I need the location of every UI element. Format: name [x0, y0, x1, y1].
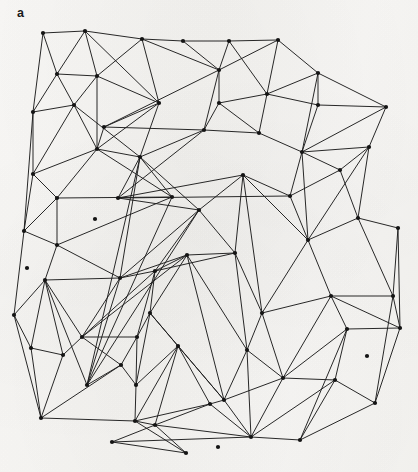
- mesh-edge: [87, 197, 172, 385]
- mesh-edge: [155, 425, 251, 437]
- mesh-edge: [308, 240, 331, 296]
- mesh-edge: [43, 33, 57, 74]
- mesh-vertex: [134, 383, 138, 387]
- mesh-vertex: [95, 74, 99, 78]
- mesh-edge: [112, 425, 155, 442]
- mesh-edge: [340, 147, 369, 170]
- mesh-vertex: [118, 276, 122, 280]
- mesh-vertex: [329, 294, 333, 298]
- mesh-edge: [112, 442, 186, 453]
- mesh-vertex: [12, 313, 16, 317]
- mesh-vertex: [95, 147, 99, 151]
- mesh-vertex: [185, 253, 189, 257]
- mesh-edge: [398, 228, 400, 328]
- mesh-vertex: [135, 335, 139, 339]
- mesh-vertex: [245, 348, 249, 352]
- mesh-edge: [302, 147, 369, 152]
- mesh-edge: [74, 105, 97, 149]
- mesh-vertex: [148, 311, 152, 315]
- mesh-vertex: [29, 346, 33, 350]
- mesh-edge: [142, 39, 183, 41]
- mesh-edge: [140, 103, 159, 157]
- mesh-edge: [199, 175, 243, 210]
- mesh-vertex: [181, 39, 185, 43]
- mesh-edge: [243, 175, 290, 196]
- mesh-edge: [247, 350, 251, 437]
- mesh-edge: [267, 73, 318, 94]
- mesh-vertex: [367, 145, 371, 149]
- mesh-edge: [97, 39, 142, 76]
- mesh-vertex: [306, 238, 310, 242]
- mesh-vertex: [153, 423, 157, 427]
- mesh-vertex: [333, 378, 337, 382]
- mesh-edge: [24, 174, 33, 231]
- figure-panel: a: [0, 0, 418, 472]
- mesh-edge: [369, 107, 386, 147]
- mesh-edge: [97, 127, 104, 149]
- mesh-edge: [259, 94, 267, 133]
- mesh-edge: [247, 350, 283, 378]
- mesh-vertex: [41, 31, 45, 35]
- mesh-edge: [219, 94, 267, 103]
- mesh-edge: [210, 400, 224, 404]
- mesh-edge: [33, 74, 57, 112]
- mesh-edge: [57, 74, 97, 76]
- mesh-vertex: [22, 229, 26, 233]
- mesh-vertex: [31, 172, 35, 176]
- mesh-edge: [33, 105, 74, 174]
- mesh-edge: [87, 157, 140, 385]
- mesh-vertex: [80, 335, 84, 339]
- mesh-vertex: [197, 208, 201, 212]
- mesh-edge: [204, 103, 219, 130]
- mesh-edge: [302, 152, 340, 170]
- mesh-edge: [57, 31, 85, 74]
- mesh-vertex: [184, 451, 188, 455]
- mesh-edge: [74, 76, 97, 105]
- mesh-edge: [45, 278, 120, 280]
- mesh-edge: [85, 31, 142, 39]
- mesh-vertex: [241, 173, 245, 177]
- mesh-vertex: [316, 71, 320, 75]
- mesh-vertex: [208, 402, 212, 406]
- mesh-edge: [259, 133, 302, 152]
- mesh-vertex: [176, 344, 180, 348]
- mesh-vertex: [31, 110, 35, 114]
- mesh-edge: [104, 70, 219, 127]
- mesh-vertex: [55, 243, 59, 247]
- mesh-edge-layer: [14, 31, 400, 453]
- mesh-edge: [57, 245, 120, 278]
- mesh-edge: [235, 175, 243, 253]
- mesh-vertex: [39, 416, 43, 420]
- mesh-vertex: [384, 105, 388, 109]
- mesh-edge: [267, 94, 318, 105]
- mesh-vertex: [217, 101, 221, 105]
- mesh-edge: [14, 231, 24, 315]
- mesh-vertex: [116, 196, 120, 200]
- mesh-vertex: [55, 196, 59, 200]
- mesh-vertex: [316, 103, 320, 107]
- mesh-edge: [247, 313, 262, 350]
- mesh-vertex: [217, 68, 221, 72]
- mesh-edge: [31, 348, 41, 418]
- mesh-vertex: [345, 327, 349, 331]
- mesh-edge: [358, 147, 369, 218]
- mesh-edge: [135, 385, 136, 421]
- mesh-edge: [251, 378, 283, 437]
- mesh-edge: [183, 41, 219, 70]
- mesh-edge: [74, 105, 140, 157]
- mesh-vertex: [298, 438, 302, 442]
- mesh-edge: [33, 33, 43, 112]
- mesh-edge: [150, 255, 187, 313]
- mesh-vertex: [300, 150, 304, 154]
- mesh-vertex: [43, 278, 47, 282]
- mesh-vertex: [83, 29, 87, 33]
- mesh-edge: [104, 127, 204, 130]
- mesh-edge: [199, 210, 235, 253]
- mesh-edge: [283, 378, 335, 380]
- mesh-vertex: [140, 37, 144, 41]
- mesh-vertex: [72, 103, 76, 107]
- mesh-vertex: [233, 251, 237, 255]
- mesh-vertex: [265, 92, 269, 96]
- mesh-edge: [57, 197, 172, 245]
- mesh-edge: [82, 255, 187, 337]
